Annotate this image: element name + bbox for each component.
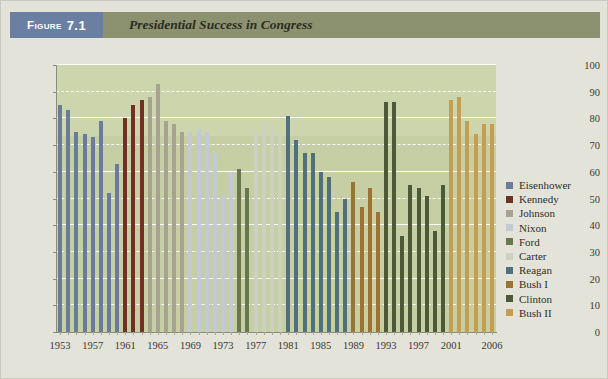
x-tick-mark: [199, 332, 200, 335]
legend-swatch-icon: [506, 295, 513, 302]
legend-label: Bush II: [519, 307, 552, 319]
bar: [131, 105, 135, 332]
x-tick-mark: [394, 332, 395, 335]
x-tick-mark: [272, 332, 273, 335]
bar: [384, 102, 388, 332]
legend-item-johnson[interactable]: Johnson: [506, 206, 606, 220]
x-tick-mark: [419, 332, 420, 335]
y-tick-mark-80: [53, 118, 57, 119]
bar: [286, 116, 290, 332]
y-tick-mark-0: [53, 332, 57, 333]
x-tick-mark: [362, 332, 363, 335]
legend-swatch-icon: [506, 238, 513, 245]
x-tick-mark: [264, 332, 265, 335]
x-tick-mark: [85, 332, 86, 335]
x-tick-mark: [451, 332, 452, 335]
bar: [360, 207, 364, 332]
legend-swatch-icon: [506, 253, 513, 260]
bar: [400, 236, 404, 332]
y-tick-mark-70: [53, 145, 57, 146]
legend-label: Nixon: [519, 222, 547, 234]
x-tick-mark: [484, 332, 485, 335]
bar: [66, 110, 70, 332]
x-tick-mark: [337, 332, 338, 335]
legend-item-nixon[interactable]: Nixon: [506, 221, 606, 235]
bar: [107, 193, 111, 332]
bar: [74, 132, 78, 332]
bar: [449, 100, 453, 332]
legend-label: Clinton: [519, 293, 552, 305]
x-tick-label-2001: 2001: [431, 340, 471, 351]
x-tick-mark: [345, 332, 346, 335]
x-tick-mark: [370, 332, 371, 335]
x-tick-mark: [133, 332, 134, 335]
x-tick-label-2006: 2006: [472, 340, 512, 351]
legend-swatch-icon: [506, 224, 513, 231]
bar: [457, 97, 461, 332]
bar: [262, 124, 266, 332]
legend-item-eisenhower[interactable]: Eisenhower: [506, 178, 606, 192]
bar: [270, 126, 274, 332]
figure-number: 7.1: [67, 18, 86, 33]
bar: [229, 172, 233, 332]
figure-title: Presidential Success in Congress: [129, 17, 312, 33]
legend-item-clinton[interactable]: Clinton: [506, 292, 606, 306]
x-tick-mark: [492, 332, 493, 335]
x-tick-mark: [256, 332, 257, 335]
bar: [156, 84, 160, 332]
x-tick-mark: [182, 332, 183, 335]
x-tick-mark: [313, 332, 314, 335]
x-tick-mark: [386, 332, 387, 335]
legend-item-carter[interactable]: Carter: [506, 249, 606, 263]
bars-layer: [56, 65, 496, 332]
x-tick-mark: [353, 332, 354, 335]
x-tick-mark: [443, 332, 444, 335]
x-tick-mark: [305, 332, 306, 335]
bar: [83, 134, 87, 332]
x-tick-mark: [223, 332, 224, 335]
x-tick-mark: [329, 332, 330, 335]
legend-swatch-icon: [506, 182, 513, 189]
bar: [311, 153, 315, 332]
legend-item-bush-i[interactable]: Bush I: [506, 277, 606, 291]
bar: [482, 124, 486, 332]
legend-label: Johnson: [519, 207, 555, 219]
x-tick-mark: [231, 332, 232, 335]
y-tick-mark-20: [53, 279, 57, 280]
x-tick-mark: [93, 332, 94, 335]
bar: [58, 105, 62, 332]
legend-item-ford[interactable]: Ford: [506, 235, 606, 249]
bar: [335, 212, 339, 332]
legend-swatch-icon: [506, 281, 513, 288]
legend-item-bush-ii[interactable]: Bush II: [506, 306, 606, 320]
bar: [197, 129, 201, 332]
legend-item-reagan[interactable]: Reagan: [506, 263, 606, 277]
bar: [319, 172, 323, 332]
bar: [278, 132, 282, 332]
bar: [148, 97, 152, 332]
bar: [180, 132, 184, 332]
x-tick-mark: [215, 332, 216, 335]
bar: [376, 212, 380, 332]
y-tick-label-80: 80: [558, 113, 600, 124]
legend-label: Reagan: [519, 264, 552, 276]
bar: [188, 132, 192, 332]
x-tick-mark: [150, 332, 151, 335]
y-tick-mark-30: [53, 252, 57, 253]
x-tick-mark: [239, 332, 240, 335]
bar: [392, 102, 396, 332]
y-tick-label-60: 60: [558, 166, 600, 177]
bar: [474, 134, 478, 332]
legend-item-kennedy[interactable]: Kennedy: [506, 192, 606, 206]
y-tick-label-100: 100: [558, 60, 600, 71]
x-tick-mark: [101, 332, 102, 335]
bar: [408, 185, 412, 332]
bar: [123, 118, 127, 332]
legend-swatch-icon: [506, 267, 513, 274]
bar: [368, 188, 372, 332]
x-tick-mark: [467, 332, 468, 335]
bar: [465, 121, 469, 332]
x-tick-mark: [174, 332, 175, 335]
bar: [433, 231, 437, 332]
x-tick-mark: [207, 332, 208, 335]
